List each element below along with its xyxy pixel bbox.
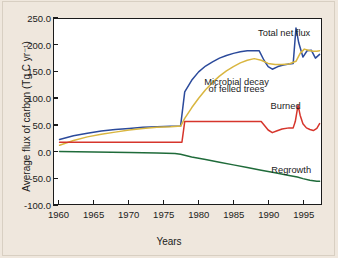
y-axis-tick-mark (53, 178, 58, 179)
y-axis-tick-mark (53, 124, 58, 125)
x-axis-tick-mark (303, 200, 304, 205)
y-axis-title: Average flux of carbon (Tg C yr⁻¹) (21, 17, 32, 217)
x-axis-tick-mark (198, 200, 199, 205)
x-axis-tick-label: 1990 (258, 209, 279, 220)
x-axis-tick-mark (233, 200, 234, 205)
x-axis-tick-mark (128, 200, 129, 205)
series-annotation-label: of felled trees (209, 84, 265, 95)
series-annotation-label: Regrowth (271, 164, 311, 175)
y-axis-tick-mark (53, 44, 58, 45)
series-line (60, 28, 320, 140)
y-axis-tick-mark (53, 17, 58, 18)
x-axis-tick-mark (268, 200, 269, 205)
series-canvas (54, 19, 321, 204)
x-axis-tick-label: 1965 (83, 209, 104, 220)
series-annotation-label: Burned (271, 100, 301, 111)
chart-figure: -100.0-50.00.050.0100.0150.0200.0250.0 A… (0, 0, 338, 258)
plot-area (53, 18, 322, 205)
x-axis-tick-label: 1975 (153, 209, 174, 220)
y-axis-tick-mark (53, 71, 58, 72)
series-annotation-label: Total net flux (258, 27, 310, 38)
y-axis-tick-label: 0.0 (38, 146, 51, 157)
x-axis-tick-mark (163, 200, 164, 205)
x-axis-tick-label: 1995 (293, 209, 314, 220)
x-axis-tick-label: 1970 (118, 209, 139, 220)
x-axis-tick-label: 1980 (188, 209, 209, 220)
x-axis-title: Years (0, 236, 338, 247)
x-axis-tick-mark (58, 200, 59, 205)
y-axis-tick-mark (53, 151, 58, 152)
y-axis-tick-label: 50.0 (33, 119, 52, 130)
y-axis-tick-label: -50.0 (29, 173, 51, 184)
x-axis-tick-mark (93, 200, 94, 205)
x-axis-tick-label: 1960 (48, 209, 69, 220)
x-axis-tick-label: 1985 (223, 209, 244, 220)
y-axis-tick-mark (53, 97, 58, 98)
